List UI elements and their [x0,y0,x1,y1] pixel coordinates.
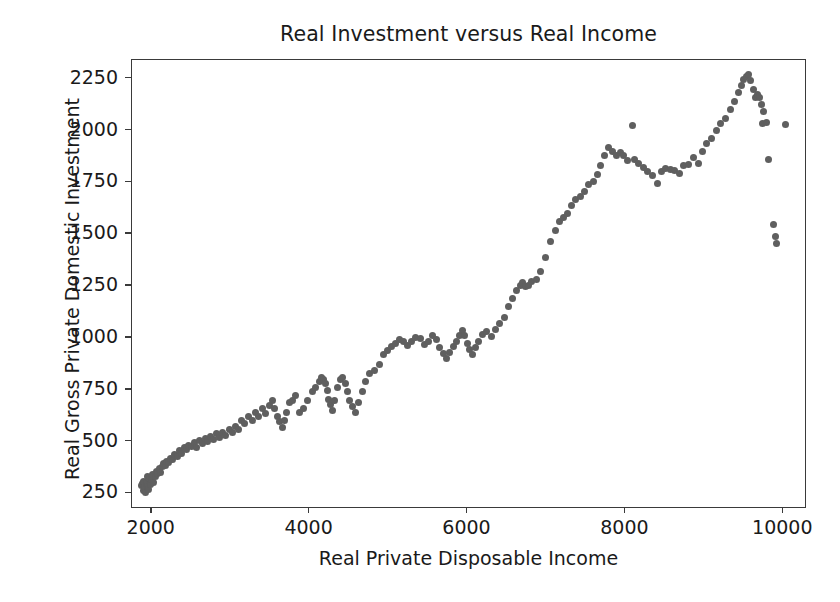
scatter-point [509,295,516,302]
y-axis-tick-label: 750 [82,379,118,398]
y-axis-tick [125,77,131,79]
scatter-point [782,121,789,128]
scatter-point [376,361,383,368]
scatter-point [255,413,262,420]
x-axis-tick-label: 10000 [752,518,812,537]
scatter-point [722,115,729,122]
scatter-point [235,426,242,433]
scatter-point [443,355,450,362]
x-axis-tick [150,507,152,513]
scatter-point [279,424,286,431]
scatter-point [649,172,656,179]
scatter-point [581,188,588,195]
scatter-point [676,170,683,177]
scatter-point [292,392,299,399]
scatter-point [731,98,738,105]
x-axis-tick [782,507,784,513]
scatter-point [371,367,378,374]
scatter-point [472,344,479,351]
scatter-point [342,380,349,387]
plot-area [131,59,806,508]
scatter-point [760,108,767,115]
y-axis-tick [125,181,131,183]
scatter-point [262,410,269,417]
scatter-point [727,106,734,113]
x-axis-tick-label: 8000 [600,518,648,537]
scatter-point [505,303,512,310]
scatter-point [329,407,336,414]
y-axis-tick-label: 250 [82,482,118,501]
scatter-point [324,387,331,394]
y-axis-tick [125,129,131,131]
scatter-point [312,384,319,391]
scatter-point [355,399,362,406]
scatter-point [564,210,571,217]
scatter-point [469,351,476,358]
scatter-point [747,77,754,84]
y-axis-tick [125,440,131,442]
x-axis-tick [466,507,468,513]
scatter-point [758,101,765,108]
scatter-point [772,233,779,240]
scatter-point [624,157,631,164]
scatter-point [629,122,636,129]
scatter-point [685,161,692,168]
scatter-point [300,405,307,412]
x-axis-tick-label: 6000 [442,518,490,537]
scatter-point [461,332,468,339]
scatter-point [708,135,715,142]
scatter-point [713,127,720,134]
scatter-point [765,156,772,163]
scatter-point [446,349,453,356]
scatter-point [496,320,503,327]
scatter-point [241,420,248,427]
scatter-point [344,388,351,395]
scatter-point [475,338,482,345]
scatter-point [433,336,440,343]
scatter-point [533,276,540,283]
chart-title: Real Investment versus Real Income [131,22,806,46]
scatter-point [738,82,745,89]
scatter-point [699,148,706,155]
y-axis-tick [125,232,131,234]
x-axis-tick [308,507,310,513]
scatter-point [304,397,311,404]
x-axis-tick-label: 2000 [127,518,175,537]
scatter-point [352,409,359,416]
y-axis-tick [125,388,131,390]
scatter-point [654,180,661,187]
scatter-point [770,221,777,228]
x-axis-tick-label: 4000 [284,518,332,537]
y-axis-tick [125,492,131,494]
scatter-point [552,227,559,234]
scatter-point [488,333,495,340]
scatter-point [334,384,341,391]
scatter-point [601,152,608,159]
scatter-point [542,254,549,261]
y-axis-label: Real Gross Private Domestic Investment [61,64,83,514]
scatter-point [501,314,508,321]
scatter-point [157,469,164,476]
scatter-point [735,89,742,96]
scatter-point [331,397,338,404]
scatter-point [281,417,288,424]
y-axis-tick [125,284,131,286]
scatter-point [547,238,554,245]
scatter-point [695,160,702,167]
scatter-point [492,326,499,333]
scatter-point [249,417,256,424]
scatter-point [269,397,276,404]
scatter-point [359,388,366,395]
scatter-point [594,171,601,178]
scatter-point [756,94,763,101]
scatter-point [283,409,290,416]
figure-canvas: Real Investment versus Real Income 25050… [0,0,840,602]
scatter-point [590,178,597,185]
y-axis-tick [125,336,131,338]
scatter-point [537,268,544,275]
scatter-point [322,380,329,387]
x-axis-tick [624,507,626,513]
scatter-point [773,240,780,247]
scatter-point [763,119,770,126]
y-axis-tick-label: 500 [82,431,118,450]
